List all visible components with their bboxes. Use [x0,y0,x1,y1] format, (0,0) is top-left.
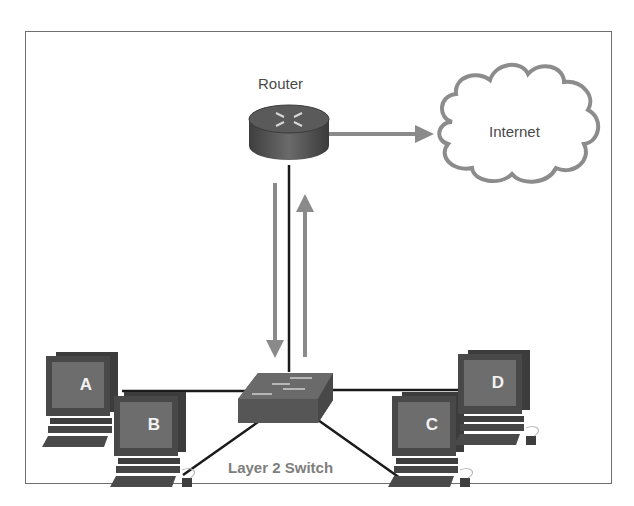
switch-label: Layer 2 Switch [228,459,333,476]
arrow-up-icon [296,194,314,357]
network-diagram [0,0,634,506]
pc-b-label: B [134,415,174,435]
pc-b-icon[interactable] [110,392,195,487]
pc-d-label: D [478,373,518,393]
router-label: Router [258,75,303,92]
pc-a-icon[interactable] [42,352,127,447]
router-icon[interactable] [249,105,329,160]
pc-c-label: C [412,415,452,435]
arrow-down-icon [266,183,284,358]
arrow-right-icon [328,125,434,143]
pc-a-label: A [66,375,106,395]
internet-label: Internet [489,123,540,140]
pc-d-icon[interactable] [454,350,539,445]
switch-icon[interactable] [238,373,333,423]
